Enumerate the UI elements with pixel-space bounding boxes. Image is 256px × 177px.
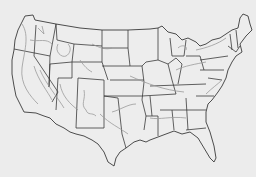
us-outline-map	[0, 0, 256, 177]
us-land-outline	[12, 14, 252, 166]
